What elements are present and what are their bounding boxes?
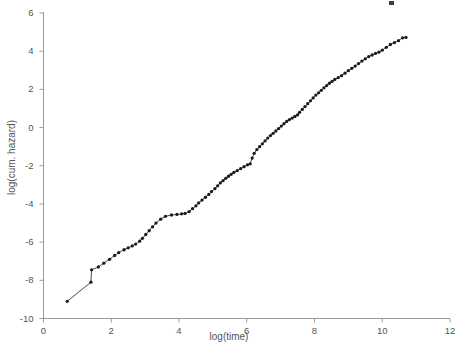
data-point: [343, 72, 346, 75]
data-point: [312, 96, 315, 99]
data-point: [303, 105, 306, 108]
data-point: [97, 265, 100, 268]
data-point: [154, 221, 157, 224]
data-point: [221, 179, 224, 182]
data-point: [227, 175, 230, 178]
data-point: [213, 187, 216, 190]
plot-area: [0, 0, 458, 354]
data-point: [306, 102, 309, 105]
data-point: [138, 240, 141, 243]
data-point: [253, 152, 256, 155]
data-point: [200, 198, 203, 201]
data-point: [340, 74, 343, 77]
data-point: [261, 142, 264, 145]
data-point: [397, 39, 400, 42]
data-point: [180, 212, 183, 215]
data-point: [328, 82, 331, 85]
data-point: [296, 113, 299, 116]
data-point: [134, 242, 137, 245]
data-point: [113, 254, 116, 257]
data-point: [251, 156, 254, 159]
data-point: [277, 127, 280, 130]
data-point: [337, 76, 340, 79]
data-point: [381, 49, 384, 52]
data-point: [194, 204, 197, 207]
data-point: [258, 145, 261, 148]
data-point: [127, 246, 130, 249]
data-point: [151, 225, 154, 228]
y-tick-label: -6: [12, 236, 34, 247]
data-point: [204, 196, 207, 199]
data-point: [272, 132, 275, 135]
data-point: [330, 80, 333, 83]
x-axis-label: log(time): [0, 331, 458, 342]
data-point: [236, 169, 239, 172]
data-point: [89, 281, 92, 284]
data-point: [377, 51, 380, 54]
data-point: [263, 139, 266, 142]
data-point: [102, 261, 105, 264]
data-point: [249, 162, 252, 165]
data-point: [385, 46, 388, 49]
data-point: [232, 171, 235, 174]
data-point: [148, 229, 151, 232]
data-point: [280, 124, 283, 127]
y-tick-label: -8: [12, 274, 34, 285]
data-point: [230, 173, 233, 176]
data-point: [219, 181, 222, 184]
data-point: [309, 99, 312, 102]
data-point: [266, 136, 269, 139]
data-point: [242, 165, 245, 168]
y-axis-label: log(cum. hazard): [6, 93, 17, 223]
data-point: [393, 41, 396, 44]
data-point: [183, 212, 186, 215]
data-point: [90, 268, 93, 271]
data-point: [325, 84, 328, 87]
data-point: [322, 86, 325, 89]
data-point: [141, 237, 144, 240]
data-point: [314, 93, 317, 96]
data-point: [354, 64, 357, 67]
data-point: [404, 36, 407, 39]
data-point: [301, 108, 304, 111]
y-axis-ticks: [40, 13, 44, 319]
data-point: [274, 129, 277, 132]
data-point: [282, 122, 285, 125]
data-point: [401, 36, 404, 39]
data-point: [191, 207, 194, 210]
data-point: [131, 244, 134, 247]
data-point: [298, 111, 301, 114]
data-point: [108, 258, 111, 261]
data-point: [197, 201, 200, 204]
y-tick-label: 6: [12, 7, 34, 18]
data-point: [117, 251, 120, 254]
data-point: [210, 190, 213, 193]
data-point: [370, 53, 373, 56]
data-point: [357, 62, 360, 65]
data-point: [360, 59, 363, 62]
data-point: [122, 248, 125, 251]
data-point: [224, 177, 227, 180]
data-point: [367, 55, 370, 58]
data-point: [239, 167, 242, 170]
data-point: [66, 300, 69, 303]
data-point: [216, 184, 219, 187]
y-tick-label: -10: [12, 313, 34, 324]
data-point: [333, 78, 336, 81]
data-point: [320, 89, 323, 92]
data-point: [364, 57, 367, 60]
chart-figure: -10-8-6-4-20246024681012 log(time) log(c…: [0, 0, 458, 354]
data-point: [175, 213, 178, 216]
data-series-group: [66, 36, 408, 303]
data-point: [350, 67, 353, 70]
y-tick-label: 4: [12, 45, 34, 56]
data-point: [317, 91, 320, 94]
data-point: [374, 52, 377, 55]
x-axis-ticks: [44, 319, 451, 323]
data-point: [170, 213, 173, 216]
data-point: [164, 215, 167, 218]
data-point: [255, 148, 258, 151]
data-point: [389, 43, 392, 46]
data-point: [347, 69, 350, 72]
data-point: [207, 193, 210, 196]
